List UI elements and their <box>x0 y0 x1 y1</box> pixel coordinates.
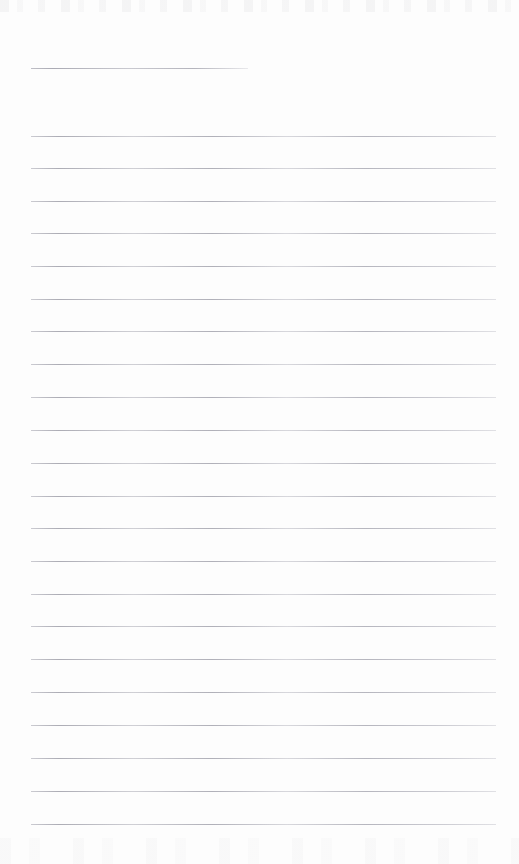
body-rule-4 <box>31 233 496 234</box>
body-rule-11 <box>31 463 496 464</box>
writing-area[interactable] <box>0 0 519 864</box>
body-rule-5 <box>31 266 496 267</box>
body-rule-22 <box>31 824 496 825</box>
body-rule-1 <box>31 136 496 137</box>
body-rule-7 <box>31 331 496 332</box>
body-rule-2 <box>31 168 496 169</box>
body-rule-6 <box>31 299 496 300</box>
body-rule-9 <box>31 397 496 398</box>
body-rule-14 <box>31 561 496 562</box>
body-rule-16 <box>31 626 496 627</box>
body-rule-19 <box>31 725 496 726</box>
body-rule-3 <box>31 201 496 202</box>
body-rule-12 <box>31 496 496 497</box>
body-rule-10 <box>31 430 496 431</box>
body-rule-21 <box>31 791 496 792</box>
body-rule-15 <box>31 594 496 595</box>
body-rule-18 <box>31 692 496 693</box>
title-rule <box>31 68 248 69</box>
note-page <box>0 0 519 864</box>
body-rule-13 <box>31 528 496 529</box>
body-rule-8 <box>31 364 496 365</box>
body-rule-20 <box>31 758 496 759</box>
body-rule-17 <box>31 659 496 660</box>
